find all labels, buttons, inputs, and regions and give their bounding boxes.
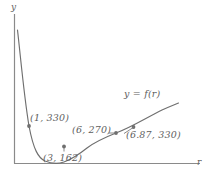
y-axis-label: y xyxy=(11,3,16,12)
function-graph-figure: y r y = f(r) (1, 330) (3, 162) (6, 270) … xyxy=(0,0,209,178)
marker-point-1-330 xyxy=(27,124,31,128)
point-label-1-330: (1, 330) xyxy=(30,113,69,123)
axes-group xyxy=(14,14,200,164)
x-axis-label: r xyxy=(197,158,202,167)
function-equation-label: y = f(r) xyxy=(124,89,160,99)
point-label-6p87-330: (6.87, 330) xyxy=(126,130,181,140)
point-label-6-270: (6, 270) xyxy=(72,125,111,135)
graph-canvas xyxy=(0,0,209,178)
marker-point-3-162 xyxy=(62,145,66,149)
point-label-3-162: (3, 162) xyxy=(43,153,82,163)
